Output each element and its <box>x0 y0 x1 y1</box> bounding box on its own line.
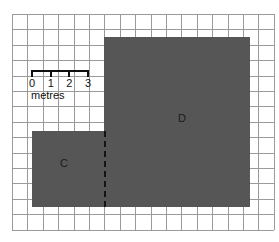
scale-bar-line <box>32 70 88 72</box>
scale-tick-label: 2 <box>66 78 72 89</box>
scale-tick-label: 1 <box>48 78 54 89</box>
scale-tick <box>50 70 52 77</box>
scale-caption-metres: metres <box>31 90 65 101</box>
grid-figure: C D 0123 metres <box>0 0 279 242</box>
dashed-boundary-line <box>104 131 106 207</box>
scale-tick <box>31 70 33 77</box>
scale-tick <box>68 70 70 77</box>
shape-label-d: D <box>178 113 186 124</box>
shape-rectangle-d <box>104 37 250 207</box>
scale-tick <box>87 70 89 77</box>
shape-label-c: C <box>60 158 68 169</box>
scale-tick-label: 0 <box>29 78 35 89</box>
shape-rectangle-c <box>32 131 104 207</box>
scale-tick-label: 3 <box>85 78 91 89</box>
